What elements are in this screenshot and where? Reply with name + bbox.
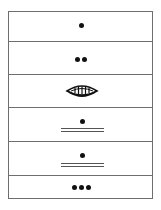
dot-icon (82, 57, 87, 62)
line-lower (61, 166, 104, 167)
dot-icon (80, 119, 85, 124)
dot-icon (79, 23, 84, 28)
dot-icon (75, 57, 80, 62)
striped-eye-icon (65, 83, 99, 99)
symbol-stack: single-dot double-dot striped-eye dot-ov… (8, 11, 153, 199)
cell-dot-over-double-line: dot-over-double-line (9, 108, 152, 142)
cell-triple-dot: triple-dot (9, 176, 152, 198)
cell-double-dot: double-dot (9, 42, 152, 75)
dot-icon (72, 185, 77, 190)
cell-dot-over-double-line: dot-over-double-line (9, 142, 152, 176)
line-upper (61, 128, 104, 129)
line-lower (61, 131, 104, 132)
cell-striped-eye: striped-eye (9, 75, 152, 108)
cell-single-dot: single-dot (9, 12, 152, 42)
dot-icon (79, 185, 84, 190)
dot-icon (80, 153, 85, 158)
dot-icon (86, 185, 91, 190)
line-upper (61, 163, 104, 164)
